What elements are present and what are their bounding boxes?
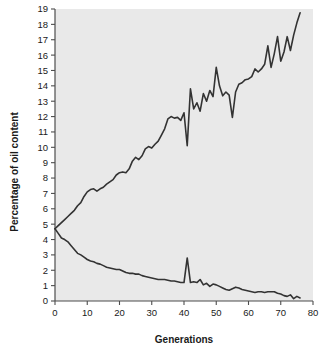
x-tick-label: 30 bbox=[146, 307, 157, 318]
x-tick-label: 40 bbox=[179, 307, 190, 318]
y-tick-label: 4 bbox=[43, 234, 48, 245]
y-tick-label: 16 bbox=[37, 50, 48, 61]
y-tick-label: 19 bbox=[37, 3, 48, 14]
y-tick-label: 17 bbox=[37, 34, 48, 45]
y-tick-label: 11 bbox=[38, 126, 48, 137]
y-tick-label: 15 bbox=[37, 65, 48, 76]
y-tick-label: 3 bbox=[43, 249, 48, 260]
y-axis-label: Percentage of oil content bbox=[9, 112, 20, 232]
y-tick-label: 10 bbox=[37, 142, 48, 153]
x-tick-label: 50 bbox=[211, 307, 222, 318]
y-tick-label: 2 bbox=[43, 265, 48, 276]
y-tick-label: 13 bbox=[37, 96, 48, 107]
y-tick-label: 18 bbox=[37, 19, 48, 30]
y-tick-label: 9 bbox=[43, 157, 48, 168]
x-tick-label: 10 bbox=[82, 307, 93, 318]
chart-figure: 012345678910111213141516171819 010203040… bbox=[0, 0, 327, 352]
x-tick-label: 70 bbox=[275, 307, 286, 318]
line-chart: 012345678910111213141516171819 010203040… bbox=[0, 0, 327, 352]
y-tick-label: 7 bbox=[43, 188, 48, 199]
x-tick-label: 0 bbox=[52, 307, 57, 318]
x-tick-label: 80 bbox=[308, 307, 319, 318]
y-tick-label: 12 bbox=[37, 111, 48, 122]
x-tick-label: 20 bbox=[114, 307, 125, 318]
x-axis-label: Generations bbox=[155, 334, 214, 345]
x-tick-label: 60 bbox=[243, 307, 254, 318]
y-tick-label: 6 bbox=[43, 203, 48, 214]
y-tick-label: 1 bbox=[43, 280, 48, 291]
y-tick-label: 8 bbox=[43, 172, 48, 183]
y-tick-label: 14 bbox=[37, 80, 48, 91]
y-tick-label: 5 bbox=[43, 219, 48, 230]
y-tick-label: 0 bbox=[43, 295, 48, 306]
